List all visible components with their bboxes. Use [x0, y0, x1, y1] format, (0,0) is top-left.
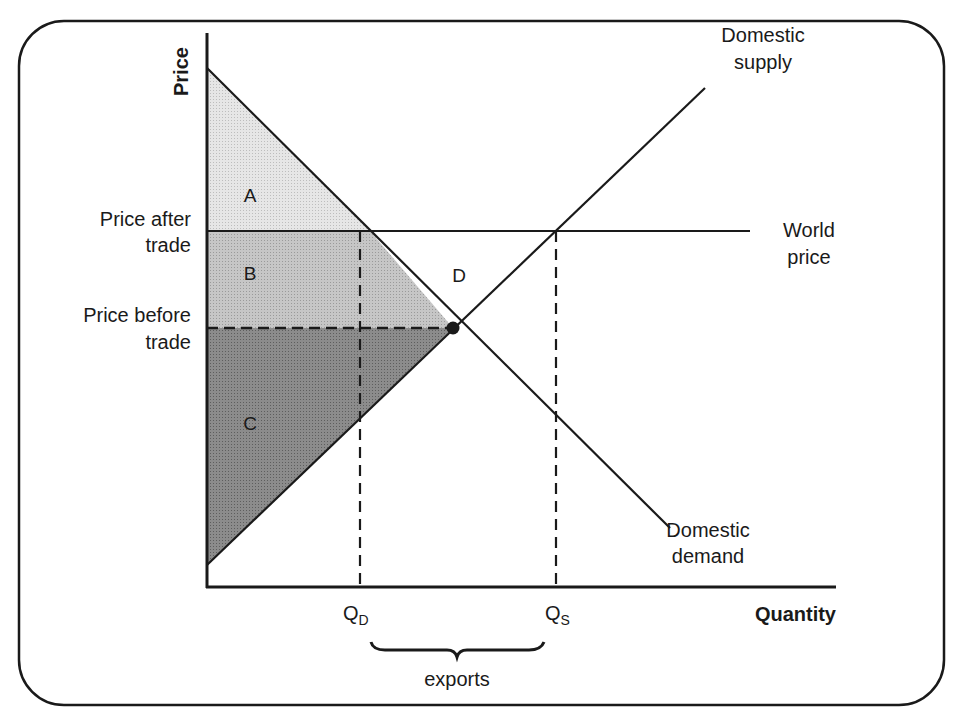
price-before-trade-label-line2: trade — [145, 331, 191, 353]
region-b-label: B — [244, 263, 257, 284]
region-a-label: A — [244, 185, 257, 206]
y-axis-label: Price — [170, 47, 192, 96]
price-after-trade-label-line1: Price after — [100, 208, 191, 230]
x-axis-label: Quantity — [755, 603, 837, 625]
exports-brace — [371, 642, 544, 657]
price-before-trade-label-line1: Price before — [83, 304, 191, 326]
qd-label: QD — [343, 602, 369, 628]
price-after-trade-label-line2: trade — [145, 234, 191, 256]
region-d-label: D — [452, 265, 466, 286]
domestic-supply-label-line1: Domestic — [721, 24, 804, 46]
region-c-label: C — [243, 413, 257, 434]
equilibrium-point — [447, 322, 460, 335]
trade-diagram: Price Quantity Price after trade Price b… — [0, 0, 955, 717]
world-price-label-line2: price — [787, 246, 830, 268]
world-price-label-line1: World — [783, 219, 835, 241]
qs-label: QS — [545, 602, 570, 628]
domestic-demand-label-line1: Domestic — [666, 519, 749, 541]
exports-label: exports — [424, 668, 490, 690]
domestic-supply-label-line2: supply — [734, 51, 792, 73]
domestic-demand-label-line2: demand — [672, 545, 744, 567]
